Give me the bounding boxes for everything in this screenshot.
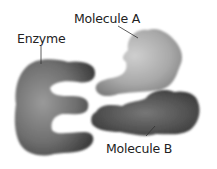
molecule-a-leader-line <box>118 26 138 38</box>
enzyme-label: Enzyme <box>17 31 65 46</box>
molecule-b-label: Molecule B <box>106 141 172 156</box>
molecule-a-shape <box>96 29 182 96</box>
enzyme-shape <box>15 59 95 155</box>
molecule-b-shape <box>91 90 199 136</box>
molecule-a-label: Molecule A <box>74 11 140 26</box>
